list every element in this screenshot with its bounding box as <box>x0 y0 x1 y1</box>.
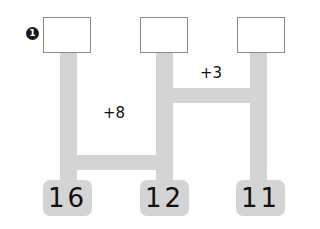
answer-box-3[interactable] <box>237 17 285 53</box>
ladder-rung-upper <box>173 88 250 103</box>
problem-number-badge: 1 <box>26 27 39 40</box>
start-value-tile-3: 11 <box>236 180 285 216</box>
connector-label-plus-8: +8 <box>103 104 125 122</box>
ladder-pole-2 <box>156 53 173 183</box>
start-value-tile-2: 12 <box>140 180 189 216</box>
answer-box-2[interactable] <box>140 17 188 53</box>
ladder-pole-1 <box>60 53 77 183</box>
ladder-pole-3 <box>250 53 267 183</box>
answer-box-1[interactable] <box>43 17 91 53</box>
ladder-rung-lower <box>77 155 156 170</box>
connector-label-plus-3: +3 <box>200 64 222 82</box>
start-value-tile-1: 16 <box>43 180 92 216</box>
